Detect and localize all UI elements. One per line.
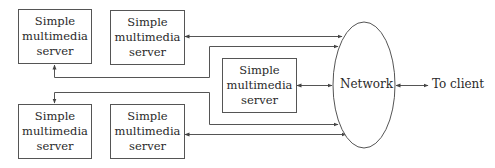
- server-label-line: multimedia: [227, 78, 293, 93]
- server-box-top-middle: Simple multimedia server: [110, 10, 185, 65]
- server-label-line: multimedia: [22, 29, 88, 44]
- server-label-line: server: [129, 45, 166, 60]
- server-label-line: Simple: [239, 63, 279, 78]
- server-label-line: Simple: [127, 109, 167, 124]
- server-label-line: server: [36, 44, 73, 59]
- server-label-line: server: [241, 93, 278, 108]
- server-label-line: multimedia: [115, 30, 181, 45]
- server-label-line: server: [129, 139, 166, 154]
- server-label-line: Simple: [35, 14, 75, 29]
- network-label: Network: [340, 77, 388, 91]
- server-label-line: server: [36, 139, 73, 154]
- diagram-canvas: Simple multimedia server Simple multimed…: [0, 0, 495, 168]
- server-box-bottom-middle: Simple multimedia server: [110, 104, 185, 159]
- client-label: To client: [432, 77, 484, 91]
- server-label-line: multimedia: [115, 124, 181, 139]
- server-box-center: Simple multimedia server: [222, 58, 297, 113]
- server-label-line: Simple: [35, 109, 75, 124]
- server-label-line: Simple: [127, 15, 167, 30]
- server-label-line: multimedia: [22, 124, 88, 139]
- server-box-bottom-left: Simple multimedia server: [18, 104, 92, 159]
- server-box-top-left: Simple multimedia server: [18, 9, 92, 64]
